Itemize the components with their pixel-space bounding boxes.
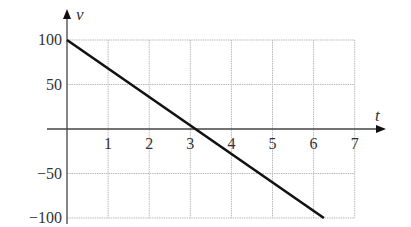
x-tick-label: 7: [351, 135, 359, 152]
x-axis-arrow-icon: [376, 125, 386, 133]
y-tick-label: −50: [37, 165, 62, 182]
y-axis-arrow-icon: [63, 9, 71, 19]
x-axis-label: t: [375, 106, 381, 125]
x-tick-label: 6: [310, 135, 318, 152]
x-tick-label: 1: [104, 135, 112, 152]
y-tick-label: 50: [46, 76, 62, 93]
x-tick-label: 4: [227, 135, 235, 152]
y-tick-label: 100: [38, 31, 62, 48]
velocity-time-chart: 123456710050−50−100 t v: [0, 0, 411, 227]
x-tick-label: 3: [186, 135, 194, 152]
x-tick-label: 5: [269, 135, 277, 152]
y-tick-label: −100: [29, 209, 62, 226]
x-tick-label: 2: [145, 135, 153, 152]
axes: [47, 9, 386, 224]
y-axis-label: v: [76, 5, 84, 24]
